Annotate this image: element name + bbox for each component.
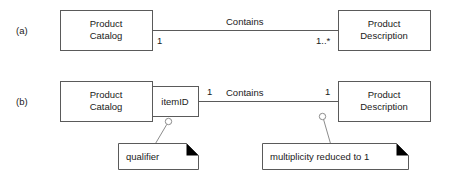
class-name-line-2: Description (338, 101, 430, 113)
multiplicity-right-b: 1 (325, 86, 330, 97)
association-name-b: Contains (226, 87, 264, 98)
note-leader-line-qualifier (156, 124, 167, 143)
note-text-qualifier: qualifier (126, 151, 159, 162)
class-name-product-catalog-b: Product Catalog (60, 89, 152, 113)
row-tag-b: (b) (16, 96, 28, 107)
class-name-line-2: Catalog (60, 30, 152, 42)
note-anchor-circle-qualifier (165, 118, 171, 124)
class-name-line-1: Product (60, 18, 152, 30)
association-name-a: Contains (226, 16, 264, 27)
multiplicity-left-b: 1 (207, 86, 212, 97)
class-name-line-1: Product (60, 89, 152, 101)
class-name-line-2: Catalog (60, 101, 152, 113)
note-anchor-circle-multiplicity (319, 113, 325, 119)
class-name-line-1: Product (338, 89, 430, 101)
uml-diagram: (a) Product Catalog Product Description … (0, 0, 451, 178)
class-name-line-2: Description (338, 30, 430, 42)
note-fold-corner-qualifier (187, 144, 199, 156)
multiplicity-right-a: 1..* (316, 35, 330, 46)
qualifier-label-itemid: itemID (152, 96, 198, 107)
class-name-line-1: Product (338, 18, 430, 30)
class-name-product-catalog-a: Product Catalog (60, 18, 152, 42)
note-text-multiplicity: multiplicity reduced to 1 (270, 151, 369, 162)
note-leader-line-multiplicity (324, 120, 331, 144)
multiplicity-left-a: 1 (157, 35, 162, 46)
row-tag-a: (a) (16, 25, 28, 36)
class-name-product-description-a: Product Description (338, 18, 430, 42)
class-name-product-description-b: Product Description (338, 89, 430, 113)
